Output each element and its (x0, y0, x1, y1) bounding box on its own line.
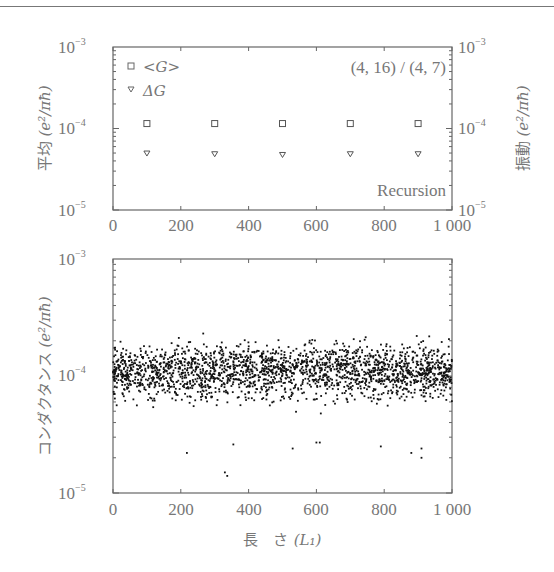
scatter-point (437, 361, 439, 363)
scatter-point (164, 392, 166, 394)
scatter-point (205, 358, 207, 360)
legend-label-mean-g: <G> (143, 58, 180, 76)
scatter-point (356, 379, 358, 381)
scatter-point (275, 359, 277, 361)
scatter-point (223, 383, 225, 385)
scatter-point (174, 364, 176, 366)
scatter-point (164, 354, 166, 356)
scatter-point (403, 376, 405, 378)
scatter-point (215, 361, 217, 363)
scatter-point (310, 343, 312, 345)
scatter-point (120, 357, 122, 359)
scatter-point (396, 380, 398, 382)
scatter-point (271, 382, 273, 384)
scatter-point (136, 368, 138, 370)
scatter-point (250, 361, 252, 363)
scatter-point (114, 349, 116, 351)
scatter-point (367, 361, 369, 363)
scatter-point (302, 373, 304, 375)
scatter-point (388, 376, 390, 378)
scatter-point (306, 363, 308, 365)
scatter-point (114, 366, 116, 368)
scatter-point (304, 350, 306, 352)
scatter-point (121, 352, 123, 354)
bottom-xlabel: 長 さ(L₁) (243, 531, 322, 549)
scatter-point (197, 359, 199, 361)
scatter-point (114, 393, 116, 395)
scatter-point (320, 370, 322, 372)
scatter-point (175, 388, 177, 390)
scatter-point (198, 351, 200, 353)
scatter-point (434, 390, 436, 392)
scatter-point (214, 364, 216, 366)
scatter-point (384, 375, 386, 377)
scatter-point (339, 376, 341, 378)
scatter-point (370, 356, 372, 358)
scatter-point (261, 361, 263, 363)
scatter-point (163, 375, 165, 377)
scatter-point (413, 382, 415, 384)
scatter-point (281, 350, 283, 352)
scatter-outlier (410, 452, 412, 454)
scatter-point (337, 361, 339, 363)
scatter-point (172, 376, 174, 378)
scatter-point (152, 406, 154, 408)
scatter-point (194, 363, 196, 365)
scatter-point (203, 386, 205, 388)
scatter-point (204, 376, 206, 378)
scatter-point (433, 383, 435, 385)
scatter-point (428, 335, 430, 337)
scatter-point (306, 361, 308, 363)
scatter-point (409, 346, 411, 348)
scatter-point (181, 347, 183, 349)
scatter-point (340, 364, 342, 366)
scatter-point (270, 365, 272, 367)
scatter-point (302, 366, 304, 368)
scatter-point (149, 383, 151, 385)
scatter-point (245, 377, 247, 379)
scatter-point (241, 366, 243, 368)
scatter-point (254, 367, 256, 369)
scatter-point (191, 387, 193, 389)
scatter-point (269, 359, 271, 361)
scatter-point (421, 374, 423, 376)
scatter-point (377, 351, 379, 353)
scatter-point (153, 357, 155, 359)
scatter-point (235, 374, 237, 376)
scatter-point (280, 381, 282, 383)
scatter-point (307, 383, 309, 385)
scatter-outlier (421, 457, 423, 459)
scatter-point (284, 388, 286, 390)
scatter-point (232, 375, 234, 377)
scatter-point (294, 360, 296, 362)
scatter-point (239, 364, 241, 366)
scatter-point (191, 367, 193, 369)
scatter-point (450, 394, 452, 396)
scatter-point (200, 372, 202, 374)
scatter-point (318, 356, 320, 358)
scatter-point (423, 378, 425, 380)
scatter-point (165, 365, 167, 367)
scatter-point (384, 353, 386, 355)
scatter-point (207, 385, 209, 387)
scatter-point (324, 350, 326, 352)
scatter-point (347, 371, 349, 373)
scatter-point (207, 384, 209, 386)
scatter-point (188, 341, 190, 343)
scatter-point (359, 346, 361, 348)
scatter-point (239, 354, 241, 356)
scatter-point (429, 396, 431, 398)
bottom-xtick: 400 (236, 500, 262, 519)
scatter-point (445, 383, 447, 385)
scatter-point (428, 352, 430, 354)
scatter-point (307, 356, 309, 358)
triangle-down-marker-icon (128, 87, 134, 92)
scatter-point (324, 404, 326, 406)
scatter-point (429, 393, 431, 395)
scatter-point (198, 384, 200, 386)
scatter-point (226, 382, 228, 384)
scatter-point (424, 374, 426, 376)
scatter-point (395, 384, 397, 386)
scatter-point (418, 343, 420, 345)
scatter-point (270, 357, 272, 359)
